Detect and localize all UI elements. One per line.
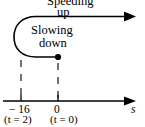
annotation-up: up [57, 6, 70, 19]
annotation-slowing: Slowing [31, 24, 73, 37]
start-point-dot [55, 54, 61, 60]
motion-diagram-figure: Speeding up Slowing down − 16 0 s (t = 2… [0, 0, 145, 127]
motion-path-arrowhead [124, 12, 136, 22]
guide-lines [21, 60, 58, 101]
axis-label-s: s [131, 104, 135, 116]
annotation-speeding: Speeding [47, 0, 94, 8]
time-label-t0: (t = 0) [50, 114, 78, 125]
annotation-down: down [39, 37, 67, 50]
time-label-t2: (t = 2) [4, 114, 32, 125]
